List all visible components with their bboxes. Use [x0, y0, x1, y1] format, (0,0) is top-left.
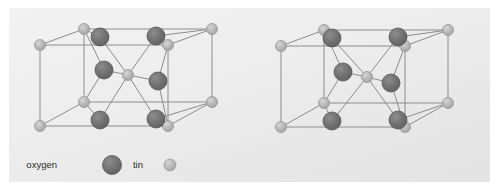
- oxygen-atom: [323, 112, 341, 130]
- legend-item-label: tin: [133, 159, 143, 170]
- tin-atom: [319, 98, 330, 109]
- tin-atom: [443, 25, 454, 36]
- tin-atom: [79, 24, 90, 35]
- tin-atom: [276, 41, 287, 52]
- oxygen-atom: [91, 28, 109, 46]
- oxygen-atom: [147, 27, 165, 45]
- oxygen-atom: [334, 63, 352, 81]
- tin-atom: [207, 24, 218, 35]
- oxygen-atom: [147, 110, 165, 128]
- crystal-structure-diagram: oxygentin: [0, 0, 498, 190]
- tin-atom: [79, 97, 90, 108]
- tin-atom: [35, 121, 46, 132]
- tin-atom: [123, 70, 134, 81]
- oxygen-atom: [323, 29, 341, 47]
- tin-atom: [35, 40, 46, 51]
- tin-atom: [163, 40, 174, 51]
- tin-atom: [207, 97, 218, 108]
- tin-atom: [276, 122, 287, 133]
- tin-swatch: [164, 159, 176, 171]
- figure-root: oxygentin: [0, 0, 498, 190]
- oxygen-atom: [389, 28, 407, 46]
- oxygen-atom: [382, 74, 400, 92]
- tin-atom: [443, 98, 454, 109]
- oxygen-atom: [149, 72, 167, 90]
- oxygen-swatch: [103, 156, 122, 175]
- oxygen-atom: [91, 111, 109, 129]
- oxygen-atom: [389, 111, 407, 129]
- tin-atom: [362, 72, 373, 83]
- oxygen-atom: [95, 61, 113, 79]
- legend-item-label: oxygen: [26, 159, 57, 170]
